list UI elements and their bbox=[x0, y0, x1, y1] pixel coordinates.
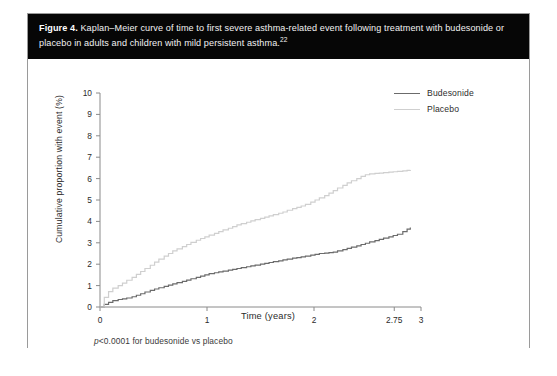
svg-text:4: 4 bbox=[87, 216, 92, 226]
chart-footnote: p<0.0001 for budesonide vs placebo bbox=[94, 336, 233, 346]
figure-label: Figure 4. bbox=[39, 23, 78, 33]
figure-caption: Figure 4. Kaplan–Meier curve of time to … bbox=[39, 21, 518, 50]
svg-text:2: 2 bbox=[87, 259, 92, 269]
svg-text:1: 1 bbox=[87, 281, 92, 291]
footnote-text: <0.0001 for budesonide vs placebo bbox=[99, 336, 233, 346]
svg-text:7: 7 bbox=[87, 152, 92, 162]
figure-caption-bar: Figure 4. Kaplan–Meier curve of time to … bbox=[28, 14, 529, 59]
svg-text:6: 6 bbox=[87, 174, 92, 184]
svg-text:2.75: 2.75 bbox=[386, 315, 403, 325]
svg-text:5: 5 bbox=[87, 195, 92, 205]
svg-text:3: 3 bbox=[419, 315, 424, 325]
x-axis-label: Time (years) bbox=[178, 311, 358, 321]
y-axis-label: Cumulative proportion with event (%) bbox=[54, 94, 64, 244]
figure-caption-text: Kaplan–Meier curve of time to first seve… bbox=[39, 23, 504, 48]
figure-card: Figure 4. Kaplan–Meier curve of time to … bbox=[27, 13, 530, 348]
svg-text:0: 0 bbox=[98, 315, 103, 325]
svg-text:9: 9 bbox=[87, 109, 92, 119]
svg-text:8: 8 bbox=[87, 131, 92, 141]
plot-area: Budesonide Placebo 0123456789100122.753 … bbox=[28, 59, 529, 349]
svg-text:0: 0 bbox=[87, 302, 92, 312]
svg-text:3: 3 bbox=[87, 238, 92, 248]
kaplan-meier-chart: 0123456789100122.753 bbox=[28, 59, 531, 349]
svg-text:10: 10 bbox=[83, 88, 93, 98]
figure-reference: 22 bbox=[280, 36, 288, 43]
